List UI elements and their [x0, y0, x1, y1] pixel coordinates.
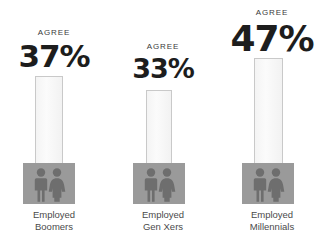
caption-boomers-line1: Employed — [0, 209, 108, 221]
stat-column-millennials: AGREE 47% Employed Millennials — [218, 0, 326, 241]
stat-block-boomers: AGREE 37% — [0, 28, 108, 72]
caption-millennials-line1: Employed — [218, 209, 326, 221]
percent-value-boomers: 37% — [0, 41, 108, 72]
stat-column-boomers: AGREE 37% Employed Boomers — [0, 0, 108, 241]
agree-label-millennials: AGREE — [218, 8, 326, 18]
agree-label-gen-xers: AGREE — [109, 42, 217, 52]
pictogram-boomers — [23, 163, 75, 204]
stat-column-gen-xers: AGREE 33% Employed Gen Xers — [109, 0, 217, 241]
two-people-icon — [242, 163, 294, 204]
bar-boomers — [35, 76, 63, 171]
caption-gen-xers-line1: Employed — [109, 209, 217, 221]
bar-millennials — [254, 58, 283, 171]
agree-label-boomers: AGREE — [0, 28, 108, 38]
percent-value-millennials: 47% — [218, 21, 326, 57]
two-people-icon — [23, 163, 75, 204]
infographic-chart: Factor in Millennials' Job Search AGREE … — [0, 0, 326, 241]
caption-gen-xers: Employed Gen Xers — [109, 209, 217, 233]
two-people-icon — [133, 163, 185, 204]
columns-container: AGREE 37% Employed Boomers — [0, 0, 326, 241]
stat-block-gen-xers: AGREE 33% — [109, 42, 217, 82]
caption-millennials-line2: Millennials — [218, 221, 326, 233]
caption-gen-xers-line2: Gen Xers — [109, 221, 217, 233]
caption-boomers: Employed Boomers — [0, 209, 108, 233]
caption-millennials: Employed Millennials — [218, 209, 326, 233]
percent-value-gen-xers: 33% — [109, 55, 217, 82]
caption-boomers-line2: Boomers — [0, 221, 108, 233]
bar-gen-xers — [146, 90, 172, 171]
pictogram-millennials — [242, 163, 294, 204]
stat-block-millennials: AGREE 47% — [218, 8, 326, 57]
pictogram-gen-xers — [133, 163, 185, 204]
